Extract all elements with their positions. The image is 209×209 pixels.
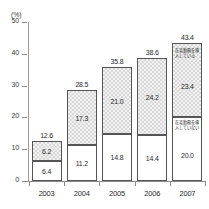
y-axis-tick-mark — [22, 117, 27, 118]
bar-group[interactable]: 20.0在宅勤務を導入していない23.4在宅勤務を導入している43.4 — [172, 22, 202, 181]
bar-segment-upper[interactable]: 23.4在宅勤務を導入している — [172, 43, 202, 117]
bar-segment-value-label: 14.4 — [138, 155, 166, 162]
y-axis-tick-label: 0 — [0, 176, 19, 183]
bar-segment-upper[interactable]: 24.2 — [137, 58, 167, 135]
bar-total-label: 43.4 — [172, 34, 202, 41]
y-axis-tick-label: 50 — [0, 17, 19, 24]
x-axis-category-label: 2005 — [99, 189, 134, 198]
stacked-bar-chart: (%) 01020304050 6.46.212.611.217.328.514… — [0, 0, 209, 209]
y-axis-tick-label: 20 — [0, 112, 19, 119]
x-axis-category-label: 2004 — [64, 189, 99, 198]
x-axis-tick-mark — [64, 182, 65, 186]
bar-segment-upper[interactable]: 21.0 — [102, 67, 132, 134]
y-axis-tick-label: 10 — [0, 144, 19, 151]
bar-total-label: 38.6 — [137, 49, 167, 56]
x-axis-category-label: 2007 — [170, 189, 205, 198]
series-annotation-lower: 在宅勤務を導入していない — [175, 120, 199, 130]
y-axis-tick-mark — [22, 54, 27, 55]
y-axis-tick-label: 40 — [0, 49, 19, 56]
bar-segment-value-label: 17.3 — [68, 115, 96, 122]
x-axis-tick-mark — [29, 182, 30, 186]
bar-segment-value-label: 6.4 — [33, 168, 61, 175]
y-axis-tick-label: 30 — [0, 81, 19, 88]
bar-segment-upper[interactable]: 17.3 — [67, 90, 97, 145]
x-axis-tick-mark — [170, 182, 171, 186]
x-axis-tick-mark — [205, 182, 206, 186]
bar-group[interactable]: 6.46.212.6 — [32, 22, 62, 181]
bar-segment-lower[interactable]: 14.4 — [137, 135, 167, 181]
y-axis-tick-mark — [22, 181, 27, 182]
bar-segment-value-label: 21.0 — [103, 98, 131, 105]
x-axis-tick-mark — [99, 182, 100, 186]
bar-group[interactable]: 11.217.328.5 — [67, 22, 97, 181]
bar-segment-lower[interactable]: 6.4 — [32, 161, 62, 181]
bar-group[interactable]: 14.424.238.6 — [137, 22, 167, 181]
bar-segment-upper[interactable]: 6.2 — [32, 141, 62, 161]
bar-segment-lower[interactable]: 14.8 — [102, 134, 132, 181]
bar-group[interactable]: 14.821.035.8 — [102, 22, 132, 181]
x-axis-category-label: 2006 — [135, 189, 170, 198]
x-axis-line — [22, 181, 206, 182]
bar-total-label: 35.8 — [102, 58, 132, 65]
x-axis-category-label: 2003 — [29, 189, 64, 198]
bar-total-label: 12.6 — [32, 132, 62, 139]
bar-segment-value-label: 20.0 — [173, 152, 201, 159]
bar-segment-value-label: 14.8 — [103, 154, 131, 161]
y-axis-tick-mark — [22, 86, 27, 87]
bar-segment-value-label: 11.2 — [68, 160, 96, 167]
y-axis-tick-mark — [22, 149, 27, 150]
bar-segment-lower[interactable]: 11.2 — [67, 145, 97, 181]
bar-segment-value-label: 24.2 — [138, 94, 166, 101]
x-axis-tick-mark — [135, 182, 136, 186]
series-annotation-upper: 在宅勤務を導入している — [175, 48, 199, 58]
bar-segment-value-label: 6.2 — [33, 148, 61, 155]
bar-total-label: 28.5 — [67, 81, 97, 88]
bar-segment-value-label: 23.4 — [173, 83, 201, 90]
bar-segment-lower[interactable]: 20.0在宅勤務を導入していない — [172, 117, 202, 181]
y-axis-line — [28, 22, 29, 181]
y-axis-tick-mark — [22, 22, 27, 23]
